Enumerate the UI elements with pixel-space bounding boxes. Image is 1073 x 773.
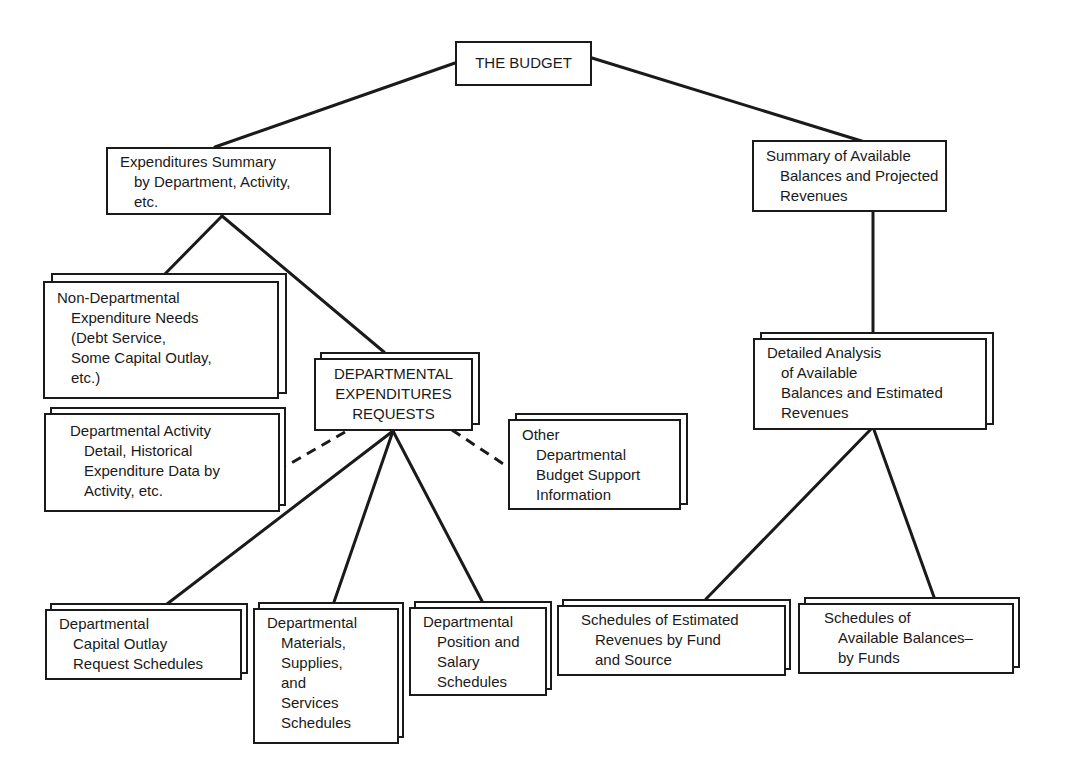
node-materials-supplies: Departmental Materials, Supplies, and Se… — [253, 608, 399, 744]
node-detailed-analysis: Detailed Analysis of Available Balances … — [753, 338, 987, 430]
node-available-balances: Schedules of Available Balances– by Fund… — [798, 603, 1014, 674]
budget-diagram: THE BUDGET Expenditures Summary by Depar… — [0, 0, 1073, 773]
edge-req-position — [393, 431, 482, 601]
node-position-salary: Departmental Position and Salary Schedul… — [409, 607, 547, 696]
edge-req-activity-dashed — [286, 432, 345, 466]
edge-root-revenues — [592, 58, 868, 143]
node-other-support: Other Departmental Budget Support Inform… — [508, 419, 681, 510]
node-estimated-revenues: Schedules of Estimated Revenues by Fund … — [557, 605, 786, 676]
node-the-budget: THE BUDGET — [455, 41, 592, 86]
node-departmental-requests: DEPARTMENTAL EXPENDITURES REQUESTS — [314, 358, 473, 431]
node-revenue-summary: Summary of Available Balances and Projec… — [752, 140, 947, 212]
edge-req-materials — [334, 431, 393, 602]
node-expenditures-summary: Expenditures Summary by Department, Acti… — [106, 147, 331, 215]
edge-req-other-dashed — [452, 430, 508, 467]
edge-root-expenditures — [215, 63, 455, 147]
node-activity-detail: Departmental Activity Detail, Historical… — [44, 413, 280, 512]
edge-analysis-estrev — [706, 427, 873, 599]
edge-exp-nondept — [161, 216, 222, 278]
node-capital-outlay: Departmental Capital Outlay Request Sche… — [45, 609, 242, 680]
node-non-departmental: Non-Departmental Expenditure Needs (Debt… — [43, 281, 279, 399]
edge-analysis-avail — [873, 427, 934, 597]
